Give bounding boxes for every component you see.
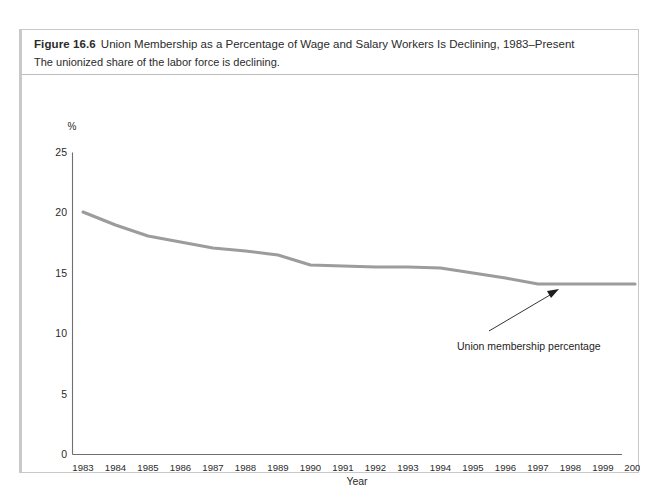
annotation-arrow-head-icon [547, 289, 559, 298]
y-tick-15: 15 [55, 267, 67, 279]
chart-annotation: Union membership percentage [457, 289, 601, 352]
figure-card: Figure 16.6Union Membership as a Percent… [19, 29, 639, 473]
y-axis-unit-label: % [68, 121, 77, 132]
y-tick-0: 0 [61, 448, 67, 460]
figure-title-line: Figure 16.6Union Membership as a Percent… [34, 37, 638, 52]
y-tick-5: 5 [61, 388, 67, 400]
union-membership-line [83, 212, 635, 284]
annotation-arrow-line [489, 292, 555, 331]
annotation-label: Union membership percentage [457, 340, 601, 352]
figure-title: Union Membership as a Percentage of Wage… [101, 38, 575, 50]
figure-header: Figure 16.6Union Membership as a Percent… [22, 30, 638, 70]
y-tick-25: 25 [55, 146, 67, 158]
y-tick-20: 20 [55, 206, 67, 218]
x-axis-title: Year [346, 475, 368, 487]
plot-area: % 25 20 15 10 5 0 Union membership perce… [22, 75, 638, 472]
figure-number: Figure 16.6 [34, 38, 96, 50]
figure-subtitle: The unionized share of the labor force i… [34, 55, 638, 70]
y-tick-10: 10 [55, 327, 67, 339]
line-chart: % 25 20 15 10 5 0 Union membership perce… [22, 75, 640, 473]
y-axis-tick-labels: 25 20 15 10 5 0 [55, 146, 67, 460]
x-axis-title-group: Year [22, 471, 640, 497]
